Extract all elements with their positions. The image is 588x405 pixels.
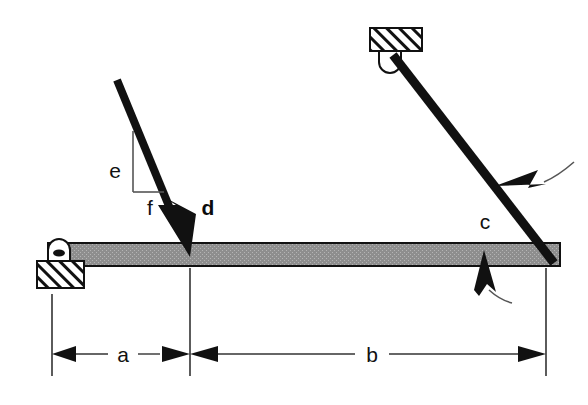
label-d: d — [202, 196, 215, 219]
pin-support-top — [370, 28, 422, 73]
label-e: e — [109, 159, 121, 182]
label-f: f — [147, 196, 153, 219]
dim-a-arrow-left — [52, 346, 76, 362]
leader-arrow-member — [495, 162, 574, 188]
dim-b-arrow-right — [518, 346, 546, 362]
applied-load-arrow — [117, 80, 196, 257]
dim-b-arrow-left — [190, 346, 218, 362]
label-a: a — [117, 343, 129, 366]
inclined-two-force-member — [393, 55, 554, 263]
ground-block-top — [370, 28, 422, 51]
pin-dot-left — [53, 250, 65, 257]
leader-beam-tail — [489, 290, 512, 303]
label-b: b — [366, 343, 378, 366]
engineering-diagram: e f d c a b — [0, 0, 588, 405]
ground-block-left — [37, 261, 84, 288]
label-c: c — [480, 210, 491, 233]
member-bar — [393, 55, 554, 263]
leader-member-tail — [544, 162, 574, 182]
leader-member-head — [495, 170, 546, 188]
diagram-canvas: e f d c a b — [0, 0, 588, 405]
dim-a-arrow-right — [162, 346, 190, 362]
